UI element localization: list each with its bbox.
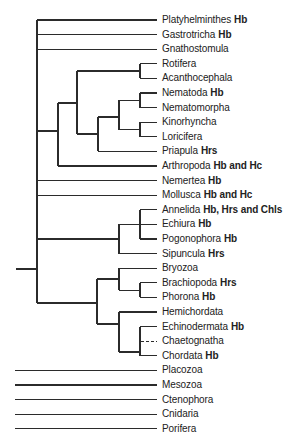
taxon-label-chaetognatha: Chaetognatha <box>162 334 224 348</box>
taxon-label-brachiopoda: BrachiopodaHrs <box>162 276 236 290</box>
pigment-label: Hb and Hc <box>204 189 253 200</box>
pigment-label: Hb <box>224 233 237 244</box>
pigment-label: Hb <box>208 175 221 186</box>
taxon-label-hemichordata: Hemichordata <box>162 305 223 319</box>
taxon-name: Gastrotricha <box>162 29 215 40</box>
taxon-label-phorona: PhoronaHb <box>162 290 215 304</box>
taxon-name: Chordata <box>162 350 202 361</box>
taxon-label-kinorhyncha: Kinorhyncha <box>162 115 217 129</box>
taxon-name: Priapula <box>162 145 198 156</box>
pigment-label: Hb, Hrs and Chls <box>203 204 282 215</box>
taxon-label-gnathostomula: Gnathostomula <box>162 42 229 56</box>
taxon-label-annelida: AnnelidaHb, Hrs and Chls <box>162 203 282 217</box>
pigment-label: Hb <box>202 291 215 302</box>
taxon-label-pogonophora: PogonophoraHb <box>162 232 237 246</box>
pigment-label: Hb and Hc <box>213 160 262 171</box>
taxon-label-rotifera: Rotifera <box>162 57 196 71</box>
taxon-label-sipuncula: SipunculaHrs <box>162 247 224 261</box>
taxon-name: Mesozoa <box>162 379 202 390</box>
taxon-label-nematoda: NematodaHb <box>162 86 223 100</box>
taxon-name: Phorona <box>162 291 199 302</box>
taxon-label-loricifera: Loricifera <box>162 130 202 144</box>
pigment-label: Hb <box>231 321 244 332</box>
taxon-label-nemertea: NemerteaHb <box>162 174 221 188</box>
taxon-name: Nemertea <box>162 175 205 186</box>
taxon-name: Hemichordata <box>162 306 223 317</box>
taxon-name: Sipuncula <box>162 248 205 259</box>
taxon-name: Echinodermata <box>162 321 228 332</box>
pigment-label: Hb <box>234 14 247 25</box>
pigment-label: Hrs <box>201 145 217 156</box>
taxon-name: Mollusca <box>162 189 201 200</box>
taxon-name: Pogonophora <box>162 233 221 244</box>
taxon-name: Brachiopoda <box>162 277 217 288</box>
taxon-label-platyhelminthes: PlatyhelminthesHb <box>162 13 247 27</box>
taxon-label-bryozoa: Bryozoa <box>162 261 198 275</box>
taxon-name: Nematomorpha <box>162 102 230 113</box>
taxon-label-gastrotricha: GastrotrichaHb <box>162 28 231 42</box>
taxon-name: Porifera <box>162 423 196 434</box>
pigment-label: Hb <box>218 29 231 40</box>
taxon-label-cnidaria: Cnidaria <box>162 407 198 421</box>
taxon-label-mesozoa: Mesozoa <box>162 378 202 392</box>
taxon-name: Loricifera <box>162 131 202 142</box>
pigment-label: Hb <box>205 350 218 361</box>
taxon-label-chordata: ChordataHb <box>162 349 218 363</box>
taxon-name: Acanthocephala <box>162 72 232 83</box>
taxon-name: Arthropoda <box>162 160 210 171</box>
taxon-name: Annelida <box>162 204 200 215</box>
taxon-label-arthropoda: ArthropodaHb and Hc <box>162 159 262 173</box>
taxon-label-nematomorpha: Nematomorpha <box>162 101 230 115</box>
taxon-name: Platyhelminthes <box>162 14 231 25</box>
pigment-label: Hb <box>210 87 223 98</box>
taxon-name: Gnathostomula <box>162 43 229 54</box>
taxon-label-echiura: EchiuraHb <box>162 217 211 231</box>
taxon-name: Cnidaria <box>162 408 198 419</box>
taxon-name: Rotifera <box>162 58 196 69</box>
taxon-label-placozoa: Placozoa <box>162 363 202 377</box>
taxon-name: Bryozoa <box>162 262 198 273</box>
taxon-label-acanthocephala: Acanthocephala <box>162 71 232 85</box>
taxon-label-echinodermata: EchinodermataHb <box>162 320 244 334</box>
taxon-label-ctenophora: Ctenophora <box>162 393 213 407</box>
taxon-name: Kinorhyncha <box>162 116 217 127</box>
taxon-name: Chaetognatha <box>162 335 224 346</box>
pigment-label: Hb <box>198 218 211 229</box>
pigment-label: Hrs <box>208 248 224 259</box>
taxon-label-porifera: Porifera <box>162 422 196 436</box>
taxon-name: Ctenophora <box>162 394 213 405</box>
taxon-labels: PlatyhelminthesHb GastrotrichaHb Gnathos… <box>0 0 295 440</box>
pigment-label: Hrs <box>220 277 236 288</box>
taxon-name: Nematoda <box>162 87 207 98</box>
taxon-label-mollusca: MolluscaHb and Hc <box>162 188 252 202</box>
taxon-name: Placozoa <box>162 364 202 375</box>
taxon-label-priapula: PriapulaHrs <box>162 144 217 158</box>
taxon-name: Echiura <box>162 218 195 229</box>
